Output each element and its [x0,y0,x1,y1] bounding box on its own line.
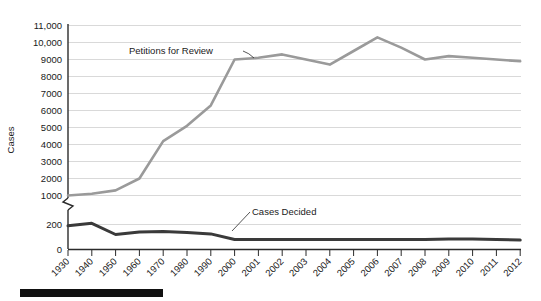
x-tick-1930: 1930 [49,256,72,279]
x-tick-1960: 1960 [120,256,143,279]
x-tick-2008: 2008 [406,256,429,279]
x-tick-2007: 2007 [382,256,405,279]
x-tick-2009: 2009 [429,256,452,279]
y-tick-11000: 11,000 [34,20,62,31]
x-tick-2005: 2005 [334,256,357,279]
x-tick-2001: 2001 [239,256,262,279]
series-line-cases-decided [68,223,520,240]
y-tick-1000: 1000 [41,190,62,201]
y-tick-5000: 5000 [41,122,62,133]
y-tick-8000: 8000 [41,71,62,82]
x-tick-1980: 1980 [168,256,191,279]
x-tick-2010: 2010 [453,256,476,279]
axis-break-icon [63,198,73,210]
y-tick-0: 0 [57,244,62,255]
x-tick-2012: 2012 [501,256,524,279]
y-tick-7000: 7000 [41,88,62,99]
footer-black-bar [20,289,163,297]
x-tick-2011: 2011 [478,256,500,278]
annotation-petitions-for-review: Petitions for Review [129,45,213,56]
x-tick-2003: 2003 [287,256,310,279]
series-line-petitions-for-review [68,37,520,195]
y-tick-200: 200 [46,219,62,230]
y-axis [63,24,73,249]
x-tick-1940: 1940 [72,256,95,279]
y-tick-6000: 6000 [41,105,62,116]
annotation-cases-decided: Cases Decided [252,206,316,217]
y-axis-title: Cases [5,126,16,153]
chart-container: 11,000 10,000 9000 8000 7000 6000 5000 4… [0,0,541,301]
x-tick-2000: 2000 [215,256,238,279]
x-tick-1970: 1970 [144,256,167,279]
y-tick-2000: 2000 [41,173,62,184]
x-tick-1950: 1950 [96,256,119,279]
x-tick-1990: 1990 [191,256,214,279]
x-tick-2006: 2006 [358,256,381,279]
y-tick-3000: 3000 [41,156,62,167]
x-tick-marks [68,250,520,256]
y-tick-10000: 10,000 [33,37,62,48]
leader-line-petitions [243,51,254,58]
line-chart: 11,000 10,000 9000 8000 7000 6000 5000 4… [0,0,541,301]
y-tick-4000: 4000 [41,139,62,150]
x-tick-2002: 2002 [263,256,286,279]
y-tick-9000: 9000 [41,54,62,65]
leader-line-cases [232,212,250,231]
y-tick-labels: 11,000 10,000 9000 8000 7000 6000 5000 4… [33,20,62,255]
x-tick-labels: 1930 1940 1950 1960 1970 1980 1990 2000 … [49,256,524,279]
x-tick-2004: 2004 [310,256,333,279]
